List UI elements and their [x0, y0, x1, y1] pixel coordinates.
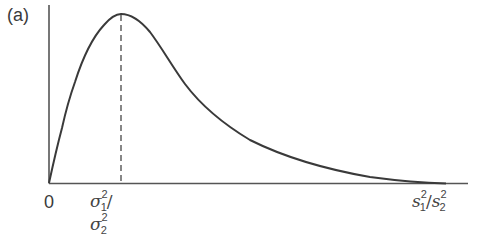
- panel-label: (a): [7, 5, 29, 26]
- x-tick-mode-label: σ21/σ22: [90, 190, 129, 236]
- density-curve: [49, 14, 446, 184]
- x-axis-label: s21/s22: [412, 190, 446, 213]
- x-tick-origin: 0: [44, 192, 54, 213]
